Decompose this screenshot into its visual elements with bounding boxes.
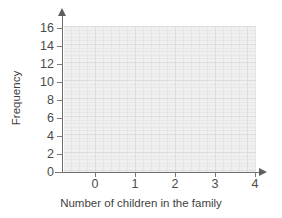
y-axis-arrow-icon — [58, 8, 66, 16]
plot-area-grid — [64, 26, 256, 172]
y-axis-tick — [57, 82, 63, 83]
y-axis-tick-label: 0 — [14, 166, 54, 179]
y-axis-tick — [57, 46, 63, 47]
y-axis-tick — [57, 100, 63, 101]
y-axis-tick — [57, 64, 63, 65]
y-axis-tick — [57, 118, 63, 119]
x-axis-arrow-icon — [259, 168, 267, 176]
x-axis-tick-label: 0 — [80, 178, 110, 191]
x-axis-title: Number of children in the family — [0, 197, 282, 209]
y-axis-tick — [57, 136, 63, 137]
y-axis-tick — [57, 28, 63, 29]
y-axis-line — [62, 14, 63, 173]
y-axis-tick — [57, 172, 63, 173]
x-axis-tick-label: 1 — [120, 178, 150, 191]
x-axis-line — [55, 172, 261, 173]
y-axis-tick-label: 16 — [14, 22, 54, 35]
frequency-chart: 16 14 12 10 8 6 4 2 0 0 1 2 3 4 Number o… — [0, 0, 282, 218]
y-axis-tick — [57, 154, 63, 155]
x-axis-tick-label: 2 — [160, 178, 190, 191]
x-axis-tick-label: 4 — [240, 178, 270, 191]
y-axis-title: Frequency — [10, 43, 22, 153]
x-axis-tick-label: 3 — [200, 178, 230, 191]
